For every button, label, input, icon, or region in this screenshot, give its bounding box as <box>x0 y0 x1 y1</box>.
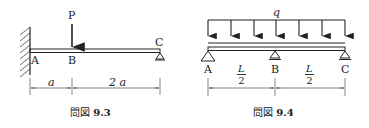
dimension-lines <box>208 78 345 96</box>
load-label-q: q <box>273 7 280 18</box>
dimension-label-a: a <box>48 77 55 88</box>
fig-9-3-drawing <box>20 24 165 95</box>
beam <box>208 47 345 51</box>
dimension-label-l-half: L 2 <box>237 64 246 86</box>
roller-support-icon <box>155 53 165 60</box>
dimension-label-2a: 2 a <box>109 77 126 88</box>
point-label-a: A <box>204 64 212 75</box>
fig-9-4-drawing <box>201 20 351 96</box>
point-label-c: C <box>341 64 349 75</box>
point-label-b: B <box>68 55 76 66</box>
dimension-label-l-half: L 2 <box>305 64 314 86</box>
figure-caption-9-4: 問図 9.4 <box>253 104 294 119</box>
point-label-c: C <box>155 37 163 48</box>
point-label-b: B <box>271 64 279 75</box>
point-label-a: A <box>31 55 39 66</box>
load-label-p: P <box>68 10 75 21</box>
fixed-wall-icon <box>20 27 30 77</box>
roller-support-icon <box>339 51 351 60</box>
figure-caption-9-3: 問図 9.3 <box>70 104 111 119</box>
distributed-load-icon <box>208 20 345 43</box>
figure-drawings <box>0 0 369 128</box>
beam <box>30 49 160 53</box>
pin-support-icon <box>201 51 215 61</box>
roller-support-icon <box>269 51 281 60</box>
